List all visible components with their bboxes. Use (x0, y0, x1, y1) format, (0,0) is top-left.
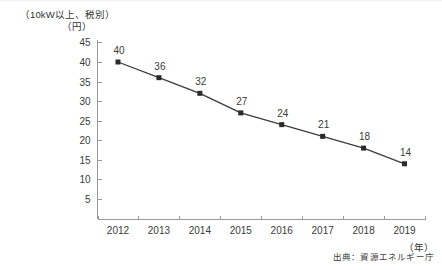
data-point-marker (115, 60, 120, 65)
x-axis-tick-label: 2016 (271, 225, 294, 236)
y-axis-tick-label: 15 (79, 155, 91, 166)
x-axis-tick-labels: 20122013201420152016201720182019 (107, 225, 416, 236)
y-axis-tick-labels: 45403530252015105 (79, 37, 91, 205)
data-point-marker (279, 122, 284, 127)
data-point-value-label: 40 (113, 45, 125, 56)
x-axis-ticks (99, 216, 426, 220)
y-axis-unit-label: （円） (20, 21, 92, 33)
y-axis-tick-label: 5 (85, 194, 91, 205)
x-axis-tick-label: 2013 (148, 225, 171, 236)
chart-container: （10kW以上、税別） （円） 4036322724211814 2012201… (0, 0, 442, 270)
data-point-value-label: 14 (400, 147, 412, 158)
y-axis-tick-label: 30 (79, 96, 91, 107)
data-point-marker (402, 161, 407, 166)
data-point-marker (238, 110, 243, 115)
y-axis-tick-label: 20 (79, 135, 91, 146)
data-point-value-label: 21 (318, 119, 330, 130)
y-axis-ticks (98, 43, 102, 200)
data-point-value-label: 36 (154, 61, 166, 72)
x-axis-tick-label: 2014 (189, 225, 212, 236)
data-point-markers (115, 60, 407, 167)
source-attribution: 出典：資源エネルギー庁 (0, 250, 434, 262)
data-point-labels: 4036322724211814 (113, 45, 411, 158)
y-axis-tick-label: 10 (79, 174, 91, 185)
data-point-value-label: 32 (195, 76, 207, 87)
y-axis-tick-label: 35 (79, 77, 91, 88)
y-axis-tick-label: 40 (79, 57, 91, 68)
data-point-value-label: 24 (277, 108, 289, 119)
data-point-marker (197, 91, 202, 96)
data-point-marker (320, 134, 325, 139)
line-chart-plot: 4036322724211814 20122013201420152016201… (0, 0, 442, 270)
data-point-value-label: 18 (359, 131, 371, 142)
y-axis-tick-label: 25 (79, 116, 91, 127)
x-axis-tick-label: 2015 (230, 225, 253, 236)
data-point-marker (156, 75, 161, 80)
data-point-marker (361, 146, 366, 151)
y-axis-tick-label: 45 (79, 37, 91, 48)
x-axis-tick-label: 2012 (107, 225, 130, 236)
x-axis-tick-label: 2019 (393, 225, 416, 236)
chart-condition-label: （10kW以上、税別） (20, 9, 115, 21)
data-point-value-label: 27 (236, 96, 248, 107)
x-axis-tick-label: 2017 (312, 225, 335, 236)
x-axis-tick-label: 2018 (352, 225, 375, 236)
